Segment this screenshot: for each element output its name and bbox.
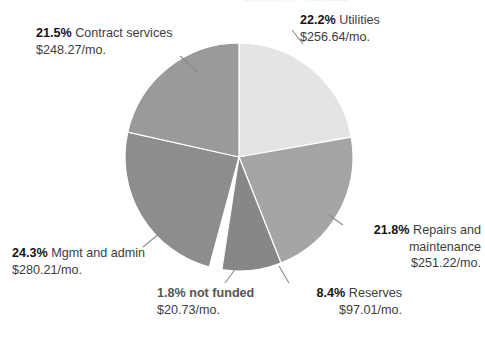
leader-line-mgmt xyxy=(143,233,160,247)
slice-label-contract-services: 21.5% Contract services $248.27/mo. xyxy=(36,25,173,58)
slice-percent-mgmt-admin: 24.3% xyxy=(12,246,48,260)
pie-slice-group xyxy=(125,43,353,279)
slice-amount-reserves: $97.01/mo. xyxy=(288,302,402,319)
slice-label-reserves: 8.4% Reserves $97.01/mo. xyxy=(288,285,402,318)
slice-amount-not-funded: $20.73/mo. xyxy=(157,302,254,319)
slice-name-mgmt-admin: Mgmt and admin xyxy=(51,246,145,260)
slice-name-not-funded: not funded xyxy=(189,286,254,300)
slice-amount-contract-services: $248.27/mo. xyxy=(36,42,173,59)
slice-name-utilities: Utilities xyxy=(339,13,380,27)
slice-percent-reserves: 8.4% xyxy=(317,286,346,300)
slice-percent-contract-services: 21.5% xyxy=(36,26,72,40)
slice-amount-repairs-maintenance: $251.22/mo. xyxy=(345,255,481,272)
slice-label-mgmt-admin: 24.3% Mgmt and admin $280.21/mo. xyxy=(12,245,145,278)
leader-line-reserves xyxy=(279,266,289,283)
slice-percent-utilities: 22.2% xyxy=(300,13,336,27)
slice-label-not-funded: 1.8% not funded $20.73/mo. xyxy=(157,285,254,318)
slice-name2-repairs-maintenance: maintenance xyxy=(345,239,481,256)
slice-amount-utilities: $256.64/mo. xyxy=(300,29,380,46)
slice-percent-not-funded: 1.8% xyxy=(157,286,186,300)
slice-amount-mgmt-admin: $280.21/mo. xyxy=(12,262,145,279)
slice-name-repairs-maintenance: Repairs and xyxy=(413,223,481,237)
slice-name-reserves: Reserves xyxy=(349,286,402,300)
pie-chart-figure: Annual Expenses 21.5% Contract services … xyxy=(0,0,485,337)
slice-name-contract-services: Contract services xyxy=(75,26,172,40)
slice-label-repairs-maintenance: 21.8% Repairs and maintenance $251.22/mo… xyxy=(345,222,481,272)
slice-percent-repairs-maintenance: 21.8% xyxy=(374,223,410,237)
slice-label-utilities: 22.2% Utilities $256.64/mo. xyxy=(300,12,380,45)
